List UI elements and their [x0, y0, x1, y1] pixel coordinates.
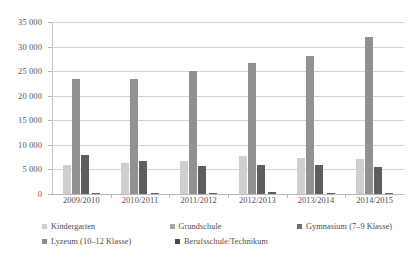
y-tick-label: 35 000 [18, 18, 42, 27]
bar-group [287, 22, 346, 194]
legend-label: Gymnasium (7–9 Klasse) [306, 222, 392, 231]
bar [365, 37, 373, 194]
legend-label: Grundschule [179, 222, 222, 231]
legend-item-grundschule: Grundschule [170, 222, 298, 231]
legend-swatch-icon [175, 239, 180, 244]
bar [121, 163, 129, 194]
bar [92, 193, 100, 194]
bar-group [52, 22, 111, 194]
bar [63, 165, 71, 194]
y-tick-label: 15 000 [18, 116, 42, 125]
bar-group [111, 22, 170, 194]
bar [248, 63, 256, 194]
y-tick-label: 0 [38, 190, 42, 199]
bar [374, 167, 382, 194]
x-tick-label: 2010/2011 [111, 196, 170, 205]
bar [209, 193, 217, 194]
bar [189, 71, 197, 194]
bar-group [345, 22, 404, 194]
legend-swatch-icon [42, 224, 47, 229]
legend-row: Kindergarten Grundschule Gymnasium (7–9 … [42, 219, 392, 234]
legend-label: Lyzeum (10–12 Klasse) [51, 237, 131, 246]
x-axis: 2009/2010 2010/2011 2011/2012 2012/2013 … [52, 196, 404, 205]
x-tick-label: 2011/2012 [169, 196, 228, 205]
legend-item-kindergarten: Kindergarten [42, 222, 170, 231]
x-tick-label: 2012/2013 [228, 196, 287, 205]
legend-item-gymnasium: Gymnasium (7–9 Klasse) [297, 222, 392, 231]
bar-group [169, 22, 228, 194]
y-tick-label: 10 000 [18, 140, 42, 149]
bar [257, 165, 265, 194]
bar [130, 79, 138, 194]
legend-swatch-icon [170, 224, 175, 229]
plot-area [52, 22, 404, 194]
legend-row: Lyzeum (10–12 Klasse) Berufsschule/Techn… [42, 234, 392, 249]
x-tick-label: 2009/2010 [52, 196, 111, 205]
legend-label: Kindergarten [51, 222, 95, 231]
y-tick-label: 20 000 [18, 91, 42, 100]
x-tick-label: 2014/2015 [345, 196, 404, 205]
bar [239, 156, 247, 194]
bar [306, 56, 314, 194]
bar [268, 192, 276, 194]
y-tick-label: 30 000 [18, 42, 42, 51]
bar [81, 155, 89, 194]
legend-item-lyzeum: Lyzeum (10–12 Klasse) [42, 237, 175, 246]
x-tick-label: 2013/2014 [287, 196, 346, 205]
bar [198, 166, 206, 194]
bar [327, 193, 335, 194]
bar [72, 79, 80, 194]
bar-groups [52, 22, 404, 194]
bar-group [228, 22, 287, 194]
bar [315, 165, 323, 194]
bar [297, 158, 305, 194]
y-tick-mark [48, 194, 52, 195]
legend-swatch-icon [42, 239, 47, 244]
y-tick-label: 25 000 [18, 67, 42, 76]
bar [151, 193, 159, 194]
bar [139, 161, 147, 194]
bar [385, 193, 393, 194]
chart-legend: Kindergarten Grundschule Gymnasium (7–9 … [42, 219, 392, 249]
legend-swatch-icon [297, 224, 302, 229]
legend-item-berufsschule: Berufsschule/Technikum [175, 237, 308, 246]
legend-label: Berufsschule/Technikum [184, 237, 268, 246]
y-axis: 35 000 30 000 25 000 20 000 15 000 10 00… [0, 22, 48, 194]
bar-chart: 35 000 30 000 25 000 20 000 15 000 10 00… [0, 0, 418, 269]
y-tick-label: 5 000 [22, 165, 42, 174]
bar [180, 161, 188, 194]
bar [356, 159, 364, 194]
